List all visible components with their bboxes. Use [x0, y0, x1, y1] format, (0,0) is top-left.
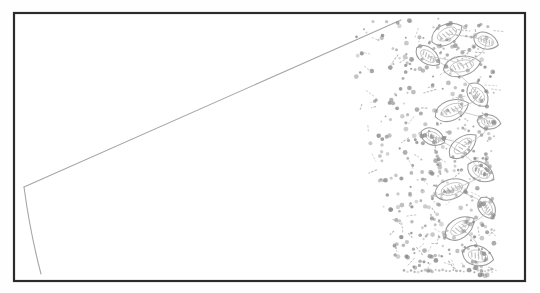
punctate-dot — [480, 76, 482, 78]
baseline-dot — [445, 270, 447, 272]
punctate-dot — [473, 235, 476, 238]
punctate-dot — [425, 65, 429, 69]
punctate-dot — [450, 68, 454, 72]
punctate-dot — [458, 75, 461, 78]
punctate-dot — [445, 108, 449, 112]
punctate-dot — [430, 214, 432, 216]
punctate-dot — [420, 170, 424, 174]
punctate-dot — [391, 101, 395, 105]
punctate-dot — [377, 39, 379, 41]
punctate-dot — [446, 80, 451, 85]
baseline-dot — [480, 269, 484, 273]
punctate-dot — [392, 47, 395, 50]
punctate-dot — [472, 125, 474, 127]
punctate-dot — [403, 150, 408, 155]
punctate-dot — [481, 248, 483, 250]
punctate-dot — [433, 185, 435, 187]
punctate-dot — [414, 68, 417, 71]
punctate-dash — [475, 52, 485, 53]
punctate-dot — [491, 120, 496, 125]
punctate-dot — [430, 216, 434, 220]
punctate-dot — [395, 94, 397, 96]
punctate-dot — [444, 57, 446, 59]
punctate-dot — [446, 181, 449, 184]
punctate-dot — [463, 151, 467, 155]
punctate-dot — [430, 135, 434, 139]
baseline-dot — [435, 269, 437, 271]
baseline-dot — [484, 270, 486, 272]
punctate-dot — [468, 222, 472, 226]
punctate-dot — [420, 158, 422, 160]
punctate-dot — [429, 40, 432, 43]
punctate-dot — [418, 260, 422, 264]
punctate-dot — [484, 113, 488, 117]
punctate-dot — [435, 212, 439, 216]
punctate-dot — [436, 163, 439, 166]
punctate-dot — [468, 146, 470, 148]
punctate-dot — [368, 141, 372, 145]
punctate-dot — [492, 71, 494, 73]
punctate-dot — [437, 44, 442, 49]
punctate-dot — [479, 164, 483, 168]
punctate-dash — [422, 108, 429, 109]
punctate-dot — [490, 228, 492, 230]
punctate-dot — [413, 266, 417, 270]
punctate-dot — [410, 171, 414, 175]
punctate-dot — [460, 115, 462, 117]
punctate-dot — [421, 68, 425, 72]
punctate-dot — [396, 205, 400, 209]
punctate-dot — [486, 25, 489, 28]
punctate-dot — [418, 132, 422, 136]
punctate-dot — [441, 255, 443, 257]
punctate-dot — [484, 126, 489, 131]
punctate-dot — [432, 75, 434, 77]
punctate-dot — [422, 238, 424, 240]
punctate-dot — [439, 173, 441, 175]
punctate-dot — [404, 255, 408, 259]
punctate-dot — [445, 38, 448, 41]
punctate-dot — [491, 241, 496, 246]
punctate-dot — [422, 260, 425, 263]
baseline-dot — [449, 270, 451, 272]
punctate-dot — [467, 149, 470, 152]
punctate-dot — [487, 91, 489, 93]
baseline-dot — [455, 270, 458, 273]
punctate-dot — [466, 204, 468, 206]
punctate-dot — [453, 160, 456, 163]
baseline-dot — [406, 270, 408, 272]
punctate-dot — [410, 220, 414, 224]
punctate-dot — [455, 194, 458, 197]
punctate-dot — [410, 68, 412, 70]
punctate-dot — [441, 145, 445, 149]
punctate-dot — [482, 157, 485, 160]
punctate-dot — [389, 208, 393, 212]
baseline-dot — [420, 270, 422, 272]
punctate-dot — [457, 127, 459, 129]
punctate-dot — [395, 48, 398, 51]
punctate-dot — [430, 255, 434, 259]
punctate-dot — [412, 133, 417, 138]
punctate-dot — [425, 235, 427, 237]
punctate-dot — [407, 86, 412, 91]
punctate-dot — [408, 192, 412, 196]
punctate-dot — [478, 104, 481, 107]
punctate-dot — [463, 82, 467, 86]
punctate-dot — [444, 64, 449, 69]
punctate-dot — [390, 177, 393, 180]
punctate-dot — [485, 230, 489, 234]
punctate-dot — [406, 61, 409, 64]
punctate-dot — [458, 205, 463, 210]
punctate-dot — [410, 186, 412, 188]
punctate-dot — [395, 106, 399, 110]
punctate-dot — [385, 135, 389, 139]
punctate-dot — [465, 35, 467, 37]
punctate-dot — [454, 86, 457, 89]
punctate-dot — [404, 41, 409, 46]
punctate-dot — [439, 222, 444, 227]
punctate-dot — [381, 159, 384, 162]
punctate-dot — [423, 204, 427, 208]
sherd-drawing-canvas — [0, 0, 540, 293]
punctate-dot — [414, 138, 417, 141]
punctate-dot — [456, 34, 458, 36]
baseline-dot — [459, 270, 461, 272]
